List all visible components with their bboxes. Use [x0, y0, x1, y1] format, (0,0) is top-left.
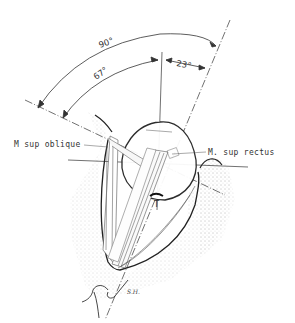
artist-signature: S.H. [127, 288, 140, 295]
angle-23-label: 23° [176, 58, 193, 70]
sup-oblique-leader [84, 145, 108, 147]
lateral-stipple [200, 159, 235, 255]
angle-90-label: 90° [97, 35, 115, 50]
sup-oblique-label: M sup oblique [14, 140, 81, 149]
angle-67-label: 67° [91, 65, 109, 82]
trochlea-label: T [153, 199, 160, 209]
sup-rectus-label: M. sup rectus [208, 148, 275, 157]
arc-67 [63, 60, 158, 118]
eye-muscle-diagram: 90° 67° 23° T M sup oblique M. sup rectu… [0, 0, 295, 323]
arc-90 [38, 34, 216, 108]
angle-arcs [38, 34, 216, 118]
